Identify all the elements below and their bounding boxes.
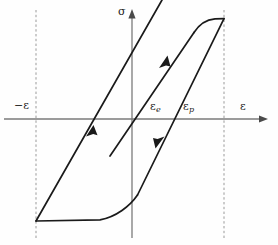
unloading-reloading-branch (110, 33, 194, 157)
initial-loading-branch (36, 0, 162, 221)
arrow-elastic-up-middle-icon (159, 56, 171, 69)
plastic-strain-subscript: p (189, 105, 194, 114)
hysteresis-loop-figure: σ −ε εe εp ε (0, 0, 278, 245)
elastic-strain-symbol: ε (150, 100, 156, 113)
plastic-strain-label: εp (183, 101, 194, 114)
upper-plastic-plateau (194, 19, 224, 33)
stress-strain-plot (0, 0, 278, 245)
plastic-strain-symbol: ε (183, 100, 189, 113)
elastic-strain-label: εe (150, 101, 161, 114)
strain-axis-label: ε (240, 101, 246, 112)
stress-axis-arrowhead (128, 9, 135, 19)
strain-axis-arrowhead (259, 116, 268, 123)
lower-plastic-plateau (36, 195, 138, 221)
elastic-strain-subscript: e (156, 105, 161, 114)
stress-axis-label: σ (118, 6, 126, 17)
negative-strain-limit-label: −ε (14, 100, 29, 111)
